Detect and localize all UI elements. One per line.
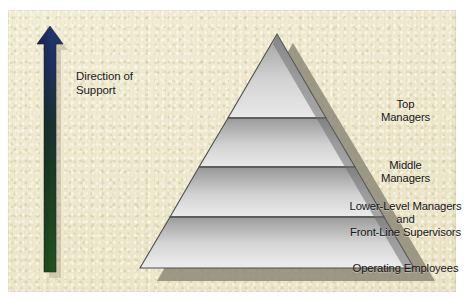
tier3-line0: Operating Employees xyxy=(278,262,464,275)
tier2-line2: Front-Line Supervisors xyxy=(278,226,464,239)
direction-of-support-arrow xyxy=(36,26,82,278)
tier-label-top-managers: Top Managers xyxy=(333,98,464,124)
pyramid-graphic xyxy=(128,26,440,282)
tier1-line1: Managers xyxy=(313,172,464,185)
tier-label-middle-managers: Middle Managers xyxy=(313,159,464,185)
tier2-line1: and xyxy=(278,213,464,226)
tier1-line0: Middle xyxy=(313,159,464,172)
tier0-line1: Managers xyxy=(333,111,464,124)
tier-label-operating-employees: Operating Employees xyxy=(278,262,464,275)
arrow-icon xyxy=(36,26,82,278)
tier-label-lower-level-managers: Lower-Level Managers and Front-Line Supe… xyxy=(278,200,464,240)
tier0-line0: Top xyxy=(333,98,464,111)
figure-canvas: Direction of Support xyxy=(0,0,464,300)
management-level-pyramid: Top Managers Middle Managers Lower-Level… xyxy=(128,26,440,282)
tier2-line0: Lower-Level Managers xyxy=(278,200,464,213)
